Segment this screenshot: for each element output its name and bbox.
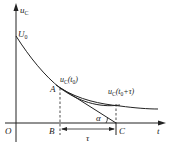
- y-axis-label: uC: [20, 5, 29, 16]
- angle-label: α: [96, 113, 101, 123]
- tau-label: τ: [86, 133, 90, 143]
- point-C-label: C: [119, 126, 126, 136]
- x-axis: [5, 121, 166, 126]
- rc-discharge-diagram: uC U0 uC(t0) A uC(t0+τ) α O B C t τ: [0, 0, 169, 152]
- arrow-right-icon: [109, 127, 115, 131]
- initial-value-label: U0: [18, 29, 28, 40]
- x-axis-label: t: [157, 126, 160, 136]
- tau-interval-arrow: [61, 127, 115, 131]
- angle-arc: [106, 118, 108, 124]
- curve-label-t0: uC(t0): [60, 75, 78, 85]
- decay-curve: [16, 36, 158, 109]
- point-A-label: A: [49, 84, 56, 94]
- arrow-left-icon: [61, 127, 67, 131]
- origin-label: O: [5, 126, 12, 136]
- point-B-label: B: [49, 126, 55, 136]
- curve-label-t0-tau: uC(t0+τ): [108, 87, 135, 97]
- y-axis: [14, 3, 19, 142]
- y-axis-arrow-icon: [14, 3, 19, 11]
- x-axis-arrow-icon: [158, 121, 166, 126]
